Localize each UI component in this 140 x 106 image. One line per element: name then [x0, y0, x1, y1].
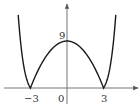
function-graph: −3 0 3 9	[0, 0, 140, 106]
x-tick-label-0: 0	[58, 93, 64, 104]
x-tick-label-3: 3	[101, 93, 107, 104]
x-tick-label-neg3: −3	[24, 93, 39, 104]
y-tick-label-9: 9	[59, 30, 65, 41]
